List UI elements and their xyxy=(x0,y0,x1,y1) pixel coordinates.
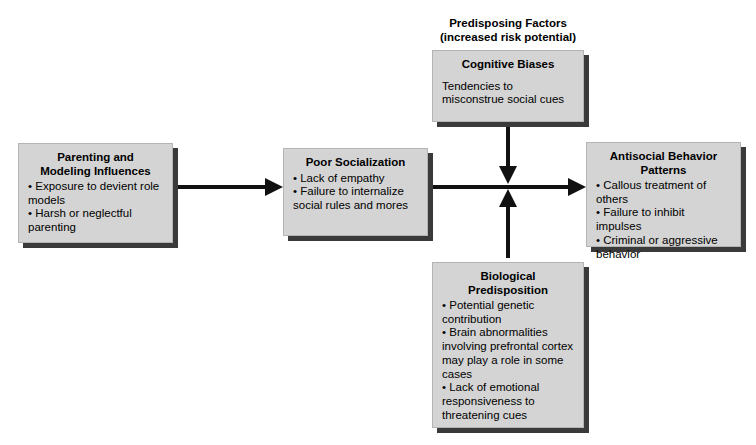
box-parenting-body: • Exposure to devient role models • Hars… xyxy=(28,180,163,235)
box-antisocial-body: • Callous treatment of others • Failure … xyxy=(596,179,731,261)
arrow-socialization-to-antisocial-head-icon xyxy=(568,178,586,196)
arrow-parenting-to-socialization-line xyxy=(178,185,266,189)
box-cognitive-biases-body-line2: misconstrue social cues xyxy=(442,93,574,107)
box-cognitive-biases: Cognitive Biases Tendencies to misconstr… xyxy=(432,50,584,122)
box-biological-bullet-1: • Potential genetic contribution xyxy=(442,299,574,326)
box-cognitive-biases-body-line1: Tendencies to xyxy=(442,80,574,94)
box-cognitive-biases-body: Tendencies to misconstrue social cues xyxy=(442,74,574,107)
box-biological-predisposition: Biological Predisposition • Potential ge… xyxy=(432,262,584,428)
predisposing-factors-heading: Predisposing Factors (increased risk pot… xyxy=(432,16,584,44)
box-antisocial-bullet-1: • Callous treatment of others xyxy=(596,179,731,206)
box-antisocial-behavior-patterns: Antisocial Behavior Patterns • Callous t… xyxy=(586,142,741,247)
box-antisocial-bullet-2: • Failure to inhibit impulses xyxy=(596,206,731,233)
box-parenting-bullet-1: • Exposure to devient role models xyxy=(28,180,163,207)
box-poor-socialization-body: • Lack of empathy • Failure to internali… xyxy=(293,172,418,213)
box-antisocial-title-line2: Patterns xyxy=(596,164,731,178)
predisposing-factors-heading-line2: (increased risk potential) xyxy=(432,30,584,44)
box-poor-socialization-bullet-2: • Failure to internalize social rules an… xyxy=(293,185,418,212)
arrow-biological-to-junction-line xyxy=(506,206,510,258)
box-biological-title-line2: Predisposition xyxy=(442,284,574,298)
box-biological-bullet-2: • Brain abnormalities involving prefront… xyxy=(442,326,574,381)
box-antisocial-bullet-3: • Criminal or aggressive behavior xyxy=(596,234,731,261)
box-antisocial-title: Antisocial Behavior Patterns xyxy=(596,150,731,177)
box-poor-socialization-title: Poor Socialization xyxy=(293,156,418,170)
box-antisocial-title-line1: Antisocial Behavior xyxy=(596,150,731,164)
arrow-cognitive-to-junction-line xyxy=(506,127,510,169)
box-biological-body: • Potential genetic contribution • Brain… xyxy=(442,299,574,422)
box-parenting-bullet-2: • Harsh or neglectful parenting xyxy=(28,207,163,234)
box-poor-socialization: Poor Socialization • Lack of empathy • F… xyxy=(283,148,428,236)
box-parenting-title-line2: Modeling Influences xyxy=(28,165,163,179)
box-biological-title-line1: Biological xyxy=(442,270,574,284)
arrow-parenting-to-socialization-head-icon xyxy=(265,178,283,196)
box-parenting-title: Parenting and Modeling Influences xyxy=(28,151,163,178)
box-poor-socialization-bullet-1: • Lack of empathy xyxy=(293,172,418,186)
diagram-canvas: Predisposing Factors (increased risk pot… xyxy=(0,0,756,445)
box-biological-title: Biological Predisposition xyxy=(442,270,574,297)
arrow-cognitive-to-junction-head-icon xyxy=(499,166,517,184)
box-parenting-title-line1: Parenting and xyxy=(28,151,163,165)
predisposing-factors-heading-line1: Predisposing Factors xyxy=(432,16,584,30)
box-cognitive-biases-title: Cognitive Biases xyxy=(442,58,574,72)
box-parenting-modeling-influences: Parenting and Modeling Influences • Expo… xyxy=(18,143,173,243)
arrow-biological-to-junction-head-icon xyxy=(499,189,517,207)
box-biological-bullet-3: • Lack of emotional responsiveness to th… xyxy=(442,381,574,422)
